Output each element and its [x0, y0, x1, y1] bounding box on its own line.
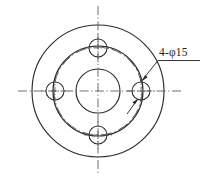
bolt-circle-pointer-arrowhead-icon — [132, 99, 138, 105]
bolt-hole-left — [41, 77, 69, 105]
bolt-hole-top — [84, 34, 112, 62]
bolt-hole-bottom — [84, 121, 112, 149]
leader-arrowhead-icon — [142, 75, 148, 82]
hole-callout-leader — [142, 61, 201, 82]
hole-callout-text: 4-φ15 — [159, 46, 188, 59]
technical-drawing-canvas: 4-φ15 — [0, 0, 205, 180]
bolt-hole-right — [127, 77, 155, 105]
flange-hole-pattern-drawing: 4-φ15 — [0, 0, 205, 180]
